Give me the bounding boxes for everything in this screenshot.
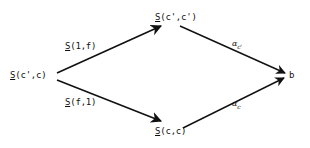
node-bottom: S(c,c) xyxy=(155,126,186,136)
node-left: S(c',c) xyxy=(10,70,47,80)
node-left-args: (c',c) xyxy=(15,70,46,80)
edge-label-top-right: αc' xyxy=(232,39,242,49)
edge-label-left-top: S(1,f) xyxy=(65,41,96,51)
node-top: S(c',c') xyxy=(155,12,197,22)
alpha-subscript: c' xyxy=(237,43,242,50)
node-right-text: b xyxy=(289,70,294,80)
node-top-args: (c',c') xyxy=(160,12,197,22)
alpha-subscript: c xyxy=(237,103,240,110)
edge-left-top-args: (1,f) xyxy=(70,41,96,51)
node-right: b xyxy=(289,70,294,80)
node-bottom-args: (c,c) xyxy=(160,126,186,136)
edge-label-left-bottom: S(f,1) xyxy=(65,97,96,107)
edge-left-bottom-args: (f,1) xyxy=(70,97,96,107)
edge-label-bottom-right: αc xyxy=(232,99,240,109)
diagram-canvas: S(c',c) S(c',c') S(c,c) b S(1,f) S(f,1) … xyxy=(0,0,310,148)
arrow-top-to-right xyxy=(180,26,285,73)
